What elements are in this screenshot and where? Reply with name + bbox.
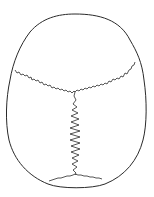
sagittal-suture — [70, 92, 80, 175]
lambdoid-suture — [49, 174, 102, 181]
skull-diagram: Skull, superior view — [0, 0, 154, 197]
coronal-suture — [15, 62, 135, 93]
skull-superior-view-drawing — [0, 0, 154, 197]
